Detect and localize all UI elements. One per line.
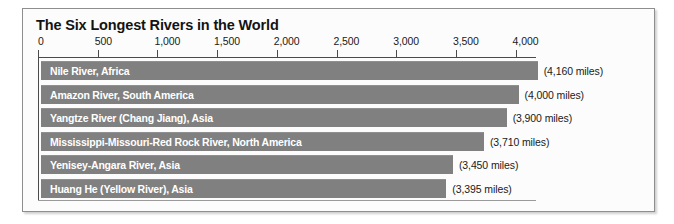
bar: Mississippi-Missouri-Red Rock River, Nor… xyxy=(41,132,484,151)
bar-value-label: (3,710 miles) xyxy=(490,136,549,148)
bar-category-label: Amazon River, South America xyxy=(50,89,194,101)
bar-category-label: Yenisey-Angara River, Asia xyxy=(50,159,180,171)
bar-category-label: Mississippi-Missouri-Red Rock River, Nor… xyxy=(50,136,302,148)
bar-value-label: (4,160 miles) xyxy=(544,65,603,77)
bar: Amazon River, South America xyxy=(41,85,519,104)
chart-figure: The Six Longest Rivers in the World 0500… xyxy=(22,8,655,212)
bar: Huang He (Yellow River), Asia xyxy=(41,179,446,198)
bar-value-label: (3,395 miles) xyxy=(452,183,511,195)
bar-category-label: Huang He (Yellow River), Asia xyxy=(50,183,193,195)
bar-category-label: Nile River, Africa xyxy=(50,65,129,77)
bar: Nile River, Africa xyxy=(41,61,538,80)
bar-value-label: (3,900 miles) xyxy=(513,112,572,124)
bar: Yangtze River (Chang Jiang), Asia xyxy=(41,108,507,127)
bar: Yenisey-Angara River, Asia xyxy=(41,155,453,174)
bar-value-label: (4,000 miles) xyxy=(525,89,584,101)
bar-value-label: (3,450 miles) xyxy=(459,159,518,171)
bar-plot-area: Nile River, Africa(4,160 miles)Amazon Ri… xyxy=(23,9,656,213)
bar-category-label: Yangtze River (Chang Jiang), Asia xyxy=(50,112,213,124)
